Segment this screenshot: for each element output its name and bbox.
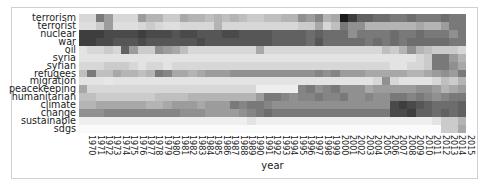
heatmap-cell: [432, 125, 440, 133]
heatmap-cell: [113, 22, 121, 30]
heatmap-cell: [407, 14, 415, 22]
heatmap-cell: [155, 38, 163, 46]
heatmap-cell: [79, 77, 87, 85]
heatmap-cell: [432, 109, 440, 117]
heatmap-cell: [87, 46, 95, 54]
heatmap-cell: [281, 77, 289, 85]
heatmap-cell: [129, 62, 137, 70]
heatmap-cell: [247, 22, 255, 30]
heatmap-cell: [247, 85, 255, 93]
heatmap-cell: [365, 109, 373, 117]
heatmap-cell: [138, 14, 146, 22]
heatmap-cell: [163, 93, 171, 101]
heatmap-cell: [424, 117, 432, 125]
heatmap-cell: [424, 62, 432, 70]
heatmap-cell: [390, 85, 398, 93]
heatmap-cell: [180, 14, 188, 22]
heatmap-cell: [348, 85, 356, 93]
heatmap-cell: [214, 70, 222, 78]
heatmap-cell: [129, 38, 137, 46]
heatmap-cell: [424, 14, 432, 22]
heatmap-cell: [222, 46, 230, 54]
heatmap-cell: [121, 46, 129, 54]
heatmap-cell: [180, 109, 188, 117]
heatmap-cell: [239, 85, 247, 93]
heatmap-cell: [390, 14, 398, 22]
heatmap-cell: [399, 38, 407, 46]
heatmap-cell: [416, 77, 424, 85]
heatmap-cell: [104, 93, 112, 101]
heatmap-cell: [180, 125, 188, 133]
heatmap-cell: [138, 46, 146, 54]
heatmap-cell: [214, 117, 222, 125]
heatmap-cell: [348, 54, 356, 62]
heatmap-cell: [298, 85, 306, 93]
heatmap-cell: [247, 14, 255, 22]
heatmap-cell: [172, 62, 180, 70]
heatmap-cell: [441, 101, 449, 109]
heatmap-cell: [138, 54, 146, 62]
heatmap-cell: [281, 38, 289, 46]
heatmap-cell: [432, 14, 440, 22]
heatmap-cell: [239, 117, 247, 125]
heatmap-cell: [298, 62, 306, 70]
heatmap-cell: [214, 46, 222, 54]
heatmap-cell: [214, 62, 222, 70]
heatmap-cell: [222, 70, 230, 78]
heatmap-cell: [205, 101, 213, 109]
heatmap-cell: [348, 101, 356, 109]
heatmap-cell: [222, 14, 230, 22]
heatmap-cell: [239, 54, 247, 62]
heatmap-cell: [222, 93, 230, 101]
heatmap-cell: [357, 93, 365, 101]
heatmap-cell: [306, 54, 314, 62]
heatmap-cell: [230, 85, 238, 93]
heatmap-cell: [222, 30, 230, 38]
heatmap-cell: [298, 125, 306, 133]
heatmap-cell: [416, 46, 424, 54]
heatmap-cell: [163, 54, 171, 62]
heatmap-cell: [399, 85, 407, 93]
heatmap-cell: [188, 109, 196, 117]
heatmap-cell: [79, 85, 87, 93]
heatmap-cell: [188, 117, 196, 125]
heatmap-cell: [365, 46, 373, 54]
heatmap-cell: [357, 85, 365, 93]
heatmap-cell: [239, 14, 247, 22]
heatmap-cell: [306, 109, 314, 117]
heatmap-cell: [449, 38, 457, 46]
heatmap-cell: [222, 125, 230, 133]
heatmap-cell: [113, 117, 121, 125]
heatmap-cell: [113, 101, 121, 109]
heatmap-cell: [146, 85, 154, 93]
heatmap-cell: [87, 125, 95, 133]
heatmap-cell: [172, 38, 180, 46]
heatmap-cell: [163, 117, 171, 125]
heatmap-cell: [155, 22, 163, 30]
heatmap-cell: [441, 70, 449, 78]
heatmap-cell: [298, 93, 306, 101]
heatmap-cell: [416, 125, 424, 133]
heatmap-cell: [205, 85, 213, 93]
heatmap-cell: [247, 77, 255, 85]
heatmap-cell: [205, 38, 213, 46]
heatmap-cell: [264, 38, 272, 46]
heatmap-cell: [424, 109, 432, 117]
heatmap-cell: [172, 14, 180, 22]
heatmap-cell: [458, 14, 466, 22]
heatmap-cell: [315, 93, 323, 101]
heatmap-cell: [272, 46, 280, 54]
heatmap-cell: [315, 46, 323, 54]
heatmap-cell: [323, 14, 331, 22]
heatmap-cell: [399, 77, 407, 85]
heatmap-cell: [104, 109, 112, 117]
heatmap-cell: [315, 77, 323, 85]
heatmap-cell: [214, 101, 222, 109]
heatmap-cell: [163, 125, 171, 133]
heatmap-cell: [214, 77, 222, 85]
heatmap-cell: [432, 30, 440, 38]
heatmap-cell: [79, 101, 87, 109]
heatmap-cell: [399, 117, 407, 125]
heatmap-cell: [399, 54, 407, 62]
heatmap-cell: [323, 101, 331, 109]
